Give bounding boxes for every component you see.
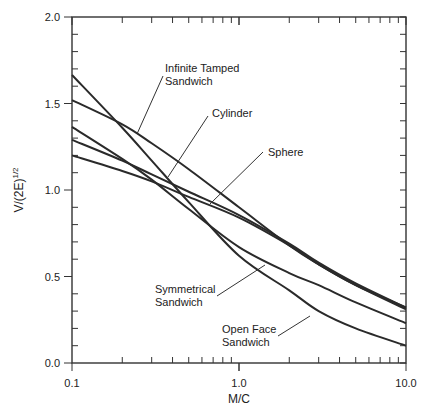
svg-text:V/(2E)1/2: V/(2E)1/2 <box>11 167 26 213</box>
leader-line-symmetrical-sandwich <box>217 265 265 296</box>
series-label-open-face-sandwich: Open FaceSandwich <box>222 323 276 348</box>
leader-line-open-face-sandwich <box>278 316 310 336</box>
curve-symmetrical-sandwich <box>72 127 406 323</box>
x-tick-label: 1.0 <box>231 377 246 389</box>
series-label-infinite-tamped-sandwich: Infinite TampedSandwich <box>165 62 239 87</box>
leader-line-sphere <box>210 152 263 204</box>
x-tick-label: 10.0 <box>395 377 416 389</box>
curve-cylinder <box>72 140 406 308</box>
y-tick-label: 2.0 <box>45 11 60 23</box>
series-label-sphere: Sphere <box>268 146 303 158</box>
y-tick-label: 1.0 <box>45 184 60 196</box>
y-tick-label: 1.5 <box>45 98 60 110</box>
series-label-symmetrical-sandwich: SymmetricalSandwich <box>155 283 216 308</box>
y-axis-title-base: V/(2E) <box>12 179 26 213</box>
y-tick-label: 0.0 <box>45 357 60 369</box>
x-tick-label: 0.1 <box>64 377 79 389</box>
curve-sphere <box>72 155 406 309</box>
x-axis-title: M/C <box>228 392 250 406</box>
chart: 0.00.51.01.52.00.11.010.0 Infinite Tampe… <box>0 0 430 414</box>
series-label-cylinder: Cylinder <box>212 107 253 119</box>
y-axis-title: V/(2E)1/2 <box>11 167 26 213</box>
leader-line-infinite-tamped-sandwich <box>137 76 163 134</box>
y-axis-title-sup: 1/2 <box>11 167 20 179</box>
y-tick-label: 0.5 <box>45 271 60 283</box>
series-annotations: Infinite TampedSandwichCylinderSphereSym… <box>137 62 310 348</box>
curve-infinite-tamped-sandwich <box>72 100 406 308</box>
